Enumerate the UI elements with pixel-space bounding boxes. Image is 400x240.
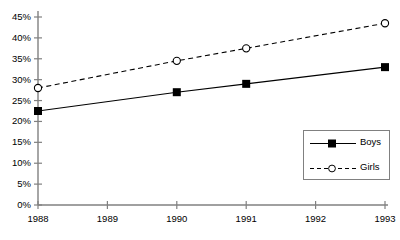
y-axis-tick-label: 15% xyxy=(0,137,31,147)
y-axis-tick-label: 0% xyxy=(0,200,31,210)
y-axis-tick-label: 20% xyxy=(0,116,31,126)
x-axis-tick-label: 1990 xyxy=(153,214,201,224)
data-point-girls xyxy=(243,45,250,52)
legend-item-girls: Girls xyxy=(304,156,391,181)
data-point-boys xyxy=(34,107,42,115)
data-point-boys xyxy=(381,63,389,71)
legend-label-girls: Girls xyxy=(360,162,380,172)
data-point-boys xyxy=(242,80,250,88)
y-axis-tick-label: 35% xyxy=(0,54,31,64)
series-line-boys xyxy=(38,67,385,111)
y-axis-tick-label: 45% xyxy=(0,12,31,22)
data-point-girls xyxy=(34,84,41,91)
x-axis-tick-label: 1992 xyxy=(292,214,340,224)
y-axis-tick-label: 30% xyxy=(0,75,31,85)
data-point-boys xyxy=(173,88,181,96)
line-chart: 0%5%10%15%20%25%30%35%40%45% 19881989199… xyxy=(0,0,400,240)
x-axis-tick-label: 1991 xyxy=(222,214,270,224)
y-axis-tick-label: 25% xyxy=(0,96,31,106)
chart-plot-area xyxy=(0,0,400,240)
x-axis-tick-label: 1989 xyxy=(83,214,131,224)
legend-label-boys: Boys xyxy=(360,137,381,147)
y-axis-tick-label: 10% xyxy=(0,158,31,168)
chart-legend: Boys Girls xyxy=(303,130,390,180)
y-axis-tick-label: 5% xyxy=(0,179,31,189)
series-line-girls xyxy=(38,23,385,88)
data-point-girls xyxy=(173,57,180,64)
data-point-girls xyxy=(381,20,388,27)
legend-swatch-girls xyxy=(310,156,356,181)
legend-swatch-boys xyxy=(310,131,356,156)
legend-item-boys: Boys xyxy=(304,131,391,156)
x-axis-tick-label: 1993 xyxy=(361,214,400,224)
x-axis-tick-label: 1988 xyxy=(14,214,62,224)
y-axis-tick-label: 40% xyxy=(0,33,31,43)
